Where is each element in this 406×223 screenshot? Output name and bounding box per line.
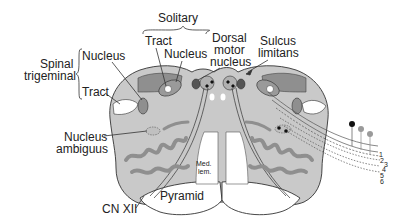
mlf-left [210, 94, 215, 101]
black-dot-icon [349, 121, 355, 127]
label-med-lem-1: Med. [196, 160, 212, 167]
label-cn-xii: CN XII [102, 202, 137, 216]
label-solitary: Solitary [158, 11, 198, 25]
dorsal-motor-nucleus-left [192, 79, 200, 89]
spinal-trigeminal-nucleus-right [292, 98, 302, 114]
label-solitary-nucleus: Nucleus [164, 47, 207, 61]
label-med-lem-2: lem. [198, 168, 211, 175]
hypoglossal-nucleus-right [223, 76, 237, 90]
fiber-markers [349, 121, 373, 154]
svg-text:6: 6 [380, 178, 384, 185]
mlf-right [221, 94, 226, 101]
solitary-tract-right [267, 86, 274, 93]
label-pyramid: Pyramid [160, 189, 204, 203]
label-spinal-tract: Tract [82, 85, 110, 99]
fiber-numbers: 1 2 3 4 5 6 [379, 151, 388, 185]
gray-dot-icon [367, 131, 373, 137]
medulla-diagram: 1 2 3 4 5 6 Solitary Tract Nucleus Dorsa… [0, 0, 406, 223]
gray-dot-icon [358, 126, 364, 132]
label-spinal-nucleus: Nucleus [82, 49, 125, 63]
spinal-trigeminal-nucleus-left [138, 98, 148, 114]
label-sulcus-2: limitans [258, 46, 299, 60]
solitary-tract-left [165, 86, 172, 93]
label-dorsal-motor-3: nucleus [210, 55, 251, 69]
nucleus-ambiguus-left [146, 127, 160, 135]
nucleus-ambiguus-right [275, 125, 291, 133]
dorsal-motor-nucleus-right [237, 79, 245, 89]
label-solitary-tract: Tract [145, 34, 173, 48]
label-trigeminal: trigeminal [24, 69, 76, 83]
label-nucleus-ambiguus-2: ambiguus [56, 142, 108, 156]
